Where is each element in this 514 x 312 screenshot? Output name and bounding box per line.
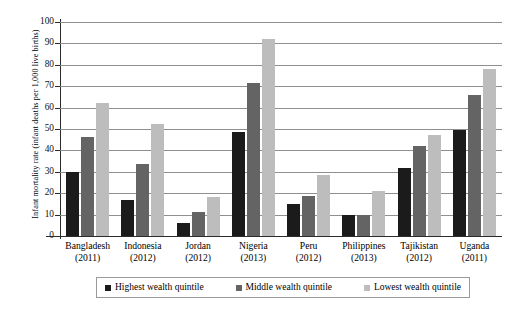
bar-group <box>232 22 275 236</box>
y-tick-label: 50 <box>32 124 54 133</box>
y-tick-mark <box>55 215 60 216</box>
legend-swatch-icon <box>236 285 242 291</box>
bar <box>136 164 149 236</box>
y-tick-mark <box>55 22 60 23</box>
x-axis-line <box>46 236 502 237</box>
legend-label: Highest wealth quintile <box>115 283 204 293</box>
y-tick-mark <box>55 172 60 173</box>
bar <box>151 124 164 236</box>
bar-group <box>342 22 385 236</box>
legend-item: Middle wealth quintile <box>236 283 333 293</box>
bar <box>287 204 300 236</box>
bar-group <box>121 22 164 236</box>
y-tick-mark <box>55 150 60 151</box>
bar <box>81 137 94 237</box>
y-tick-label: 100 <box>32 17 54 26</box>
bar <box>372 191 385 236</box>
legend-swatch-icon <box>105 285 111 291</box>
legend-item: Lowest wealth quintile <box>364 283 461 293</box>
bar <box>121 200 134 236</box>
bar <box>177 223 190 236</box>
bar <box>398 168 411 236</box>
bar-group <box>177 22 220 236</box>
bar <box>317 175 330 236</box>
chart-figure: Infant mortality rate (infant deaths per… <box>0 0 514 312</box>
bar <box>247 83 260 236</box>
bar <box>262 39 275 236</box>
bar <box>207 197 220 236</box>
y-tick-mark <box>55 193 60 194</box>
bar-group <box>287 22 330 236</box>
legend-item: Highest wealth quintile <box>105 283 204 293</box>
bar <box>413 146 426 236</box>
y-tick-mark <box>55 86 60 87</box>
bar <box>192 212 205 236</box>
y-tick-label: 20 <box>32 188 54 197</box>
bar <box>468 95 481 236</box>
y-tick-mark <box>55 65 60 66</box>
x-tick-country: Bangladesh <box>65 240 110 251</box>
bar <box>302 196 315 236</box>
legend-label: Middle wealth quintile <box>246 283 333 293</box>
bar <box>66 172 79 236</box>
bar-group <box>66 22 109 236</box>
bar-group <box>398 22 441 236</box>
y-tick-label: 60 <box>32 103 54 112</box>
bar <box>232 132 245 236</box>
x-tick-label: Uganda(2011) <box>440 240 509 265</box>
x-axis-tick-labels: Bangladesh(2011)Indonesia(2012)Jordan(20… <box>60 240 502 276</box>
x-tick-country: Peru <box>300 240 318 251</box>
bar <box>357 215 370 236</box>
bar <box>96 103 109 236</box>
chart-legend: Highest wealth quintileMiddle wealth qui… <box>96 277 470 298</box>
x-tick-country: Philippines <box>342 240 385 251</box>
x-tick-country: Jordan <box>185 240 211 251</box>
y-tick-label: 70 <box>32 81 54 90</box>
y-tick-label: 80 <box>32 60 54 69</box>
y-tick-label: 90 <box>32 38 54 47</box>
bar <box>342 215 355 236</box>
x-tick-country: Tajikistan <box>400 240 438 251</box>
y-tick-mark <box>55 43 60 44</box>
y-tick-label: 40 <box>32 145 54 154</box>
y-tick-mark <box>55 129 60 130</box>
bar <box>483 69 496 236</box>
x-tick-year: (2011) <box>440 252 509 264</box>
plot-area <box>60 22 502 236</box>
y-tick-label: 10 <box>32 210 54 219</box>
y-axis-tick-labels: 0102030405060708090100 <box>26 0 54 312</box>
x-tick-country: Nigeria <box>239 240 268 251</box>
legend-label: Lowest wealth quintile <box>374 283 461 293</box>
bar <box>453 130 466 236</box>
x-tick-country: Indonesia <box>124 240 161 251</box>
bar <box>428 135 441 236</box>
bar-group <box>453 22 496 236</box>
legend-swatch-icon <box>364 285 370 291</box>
x-tick-country: Uganda <box>459 240 489 251</box>
y-tick-label: 30 <box>32 167 54 176</box>
y-tick-mark <box>55 108 60 109</box>
y-tick-mark <box>55 236 60 237</box>
